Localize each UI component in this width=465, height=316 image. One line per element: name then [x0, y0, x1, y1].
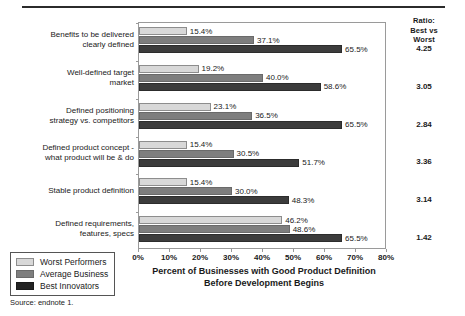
legend-swatch-worst: [16, 258, 34, 266]
category-label: Defined requirements,features, specs: [6, 219, 134, 239]
y-axis-tick: [136, 212, 139, 213]
category-label-line: market: [6, 78, 134, 88]
legend-label: Worst Performers: [40, 257, 106, 267]
x-axis-tick: [262, 249, 263, 252]
bar-value-label: 30.5%: [237, 150, 260, 158]
bar-value-label: 37.1%: [257, 37, 280, 45]
ratio-header-line-2: Best vs: [396, 26, 452, 36]
x-axis-tick: [324, 249, 325, 252]
bar-average: [139, 187, 232, 195]
category-axis-labels: Benefits to be deliveredclearly definedW…: [4, 22, 134, 249]
category-label-line: Stable product definition: [6, 186, 134, 196]
bar-best: [139, 196, 289, 204]
bar-worst: [139, 27, 187, 35]
x-axis-tick: [231, 249, 232, 252]
chart-plot-area: 15.4%37.1%65.5%19.2%40.0%58.6%23.1%36.5%…: [138, 22, 386, 249]
category-label-line: what product will be & do: [6, 153, 134, 163]
bar-value-label: 30.0%: [235, 188, 258, 196]
legend-label: Best Innovators: [40, 281, 99, 291]
ratio-value: 2.84: [396, 120, 452, 129]
legend-item: Worst Performers: [16, 256, 108, 268]
bar-average: [139, 150, 234, 158]
category-label-line: features, specs: [6, 229, 134, 239]
category-label: Defined product concept -what product wi…: [6, 143, 134, 163]
x-axis-tick-label: 80%: [366, 253, 406, 262]
bar-best: [139, 159, 299, 167]
bar-value-label: 19.2%: [202, 65, 225, 73]
ratio-value: 1.42: [396, 233, 452, 242]
category-label-line: Defined positioning: [6, 106, 134, 116]
ratio-header-line-1: Ratio:: [396, 16, 452, 26]
bar-average: [139, 112, 252, 120]
bar-worst: [139, 216, 282, 224]
y-axis-tick: [136, 99, 139, 100]
bar-value-label: 58.6%: [324, 83, 347, 91]
bar-worst: [139, 103, 211, 111]
bar-value-label: 48.3%: [292, 197, 315, 205]
bar-value-label: 48.6%: [293, 226, 316, 234]
bar-value-label: 51.7%: [302, 159, 325, 167]
bar-best: [139, 45, 342, 53]
x-axis-tick: [169, 249, 170, 252]
category-label: Benefits to be deliveredclearly defined: [6, 30, 134, 50]
y-axis-tick: [136, 137, 139, 138]
bar-value-label: 40.0%: [266, 74, 289, 82]
x-axis-tick: [386, 249, 387, 252]
ratio-value: 3.05: [396, 82, 452, 91]
category-label-line: Defined product concept -: [6, 143, 134, 153]
legend-label: Average Business: [40, 269, 108, 279]
bar-value-label: 15.4%: [190, 141, 213, 149]
top-divider-rule: [22, 6, 445, 8]
x-axis-tick: [138, 249, 139, 252]
y-axis-tick: [136, 174, 139, 175]
ratio-value: 4.25: [396, 44, 452, 53]
ratio-value: 3.14: [396, 195, 452, 204]
x-axis-title-line-2: Before Development Begins: [138, 278, 390, 290]
x-axis-title-line-1: Percent of Businesses with Good Product …: [138, 266, 390, 278]
bar-best: [139, 121, 342, 129]
bar-value-label: 65.5%: [345, 46, 368, 54]
bar-value-label: 46.2%: [285, 217, 308, 225]
bar-value-label: 23.1%: [214, 103, 237, 111]
bar-best: [139, 234, 342, 242]
bar-average: [139, 36, 254, 44]
ratio-column-header: Ratio: Best vs Worst: [396, 16, 452, 45]
category-label-line: clearly defined: [6, 40, 134, 50]
bar-worst: [139, 65, 199, 73]
ratio-value: 3.36: [396, 157, 452, 166]
bar-worst: [139, 141, 187, 149]
source-note: Source: endnote 1.: [10, 298, 73, 307]
y-axis-tick: [136, 23, 139, 24]
bar-value-label: 36.5%: [255, 112, 278, 120]
x-axis-tick: [200, 249, 201, 252]
bar-value-label: 15.4%: [190, 179, 213, 187]
bar-value-label: 15.4%: [190, 28, 213, 36]
legend-swatch-best: [16, 282, 34, 290]
category-label-line: strategy vs. competitors: [6, 116, 134, 126]
x-axis-tick: [355, 249, 356, 252]
category-label-line: Benefits to be delivered: [6, 30, 134, 40]
bar-value-label: 65.5%: [345, 235, 368, 243]
category-label-line: Defined requirements,: [6, 219, 134, 229]
category-label-line: Well-defined target: [6, 68, 134, 78]
category-label: Defined positioningstrategy vs. competit…: [6, 106, 134, 126]
chart-legend: Worst PerformersAverage BusinessBest Inn…: [10, 252, 115, 296]
x-axis-title: Percent of Businesses with Good Product …: [138, 266, 390, 289]
category-label: Stable product definition: [6, 186, 134, 196]
bar-worst: [139, 178, 187, 186]
bar-value-label: 65.5%: [345, 121, 368, 129]
legend-item: Best Innovators: [16, 280, 108, 292]
y-axis-tick: [136, 61, 139, 62]
legend-item: Average Business: [16, 268, 108, 280]
legend-swatch-average: [16, 270, 34, 278]
x-axis-tick: [293, 249, 294, 252]
bar-best: [139, 83, 321, 91]
bar-average: [139, 225, 290, 233]
bar-average: [139, 74, 263, 82]
category-label: Well-defined targetmarket: [6, 68, 134, 88]
